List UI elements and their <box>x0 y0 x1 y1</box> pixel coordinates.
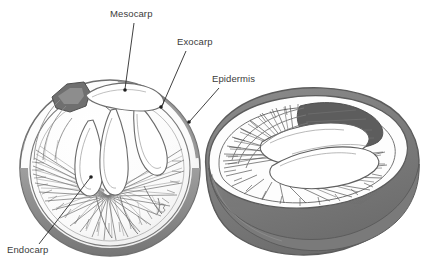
exocarp-leader-dot <box>159 105 163 109</box>
endocarp-leader-dot <box>89 175 93 179</box>
mesocarp-leader-dot <box>123 88 127 92</box>
endocarp-label: Endocarp <box>7 244 48 255</box>
left-fruit-cross-section <box>20 80 200 256</box>
exocarp-label: Exocarp <box>177 36 213 47</box>
epidermis-leader-dot <box>187 120 191 124</box>
mesocarp-label: Mesocarp <box>110 8 153 19</box>
fruit-anatomy-figure: Mesocarp Exocarp Epidermis Endocarp <box>0 0 425 273</box>
diagram-canvas: Mesocarp Exocarp Epidermis Endocarp <box>0 0 425 273</box>
right-fruit-half <box>206 88 419 255</box>
epidermis-label: Epidermis <box>212 73 255 84</box>
